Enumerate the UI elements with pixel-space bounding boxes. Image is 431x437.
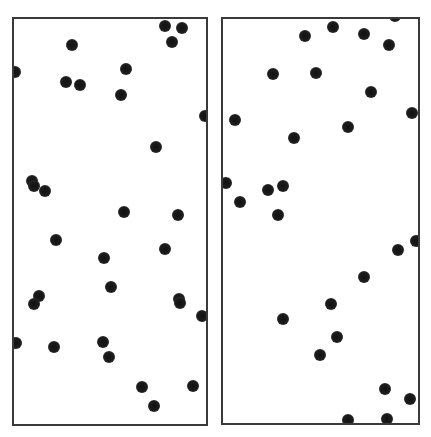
particle-dot bbox=[277, 180, 289, 192]
particle-dot bbox=[199, 110, 208, 122]
particle-dot bbox=[103, 351, 115, 363]
particle-dot bbox=[150, 141, 162, 153]
particle-dot bbox=[234, 196, 246, 208]
particle-dot bbox=[358, 28, 370, 40]
particle-dot bbox=[314, 349, 326, 361]
particle-dot bbox=[381, 413, 393, 425]
particle-dot bbox=[392, 244, 404, 256]
particle-dot bbox=[159, 20, 171, 32]
particle-dot bbox=[148, 400, 160, 412]
particle-dot bbox=[379, 383, 391, 395]
particle-dot bbox=[12, 66, 21, 78]
particle-dot bbox=[174, 297, 186, 309]
particle-dot bbox=[120, 63, 132, 75]
particle-dot bbox=[262, 184, 274, 196]
particle-dot bbox=[50, 234, 62, 246]
particle-dot bbox=[365, 86, 377, 98]
particle-dot bbox=[358, 271, 370, 283]
particle-dot bbox=[342, 121, 354, 133]
particle-dot bbox=[404, 393, 416, 405]
particle-dot bbox=[299, 30, 311, 42]
particle-dot bbox=[136, 381, 148, 393]
particle-dot bbox=[176, 22, 188, 34]
particle-dot bbox=[60, 76, 72, 88]
particle-dot bbox=[325, 298, 337, 310]
particle-dot bbox=[74, 79, 86, 91]
particle-dot bbox=[66, 39, 78, 51]
particle-dot bbox=[187, 380, 199, 392]
particle-dot bbox=[48, 341, 60, 353]
particle-dot bbox=[331, 331, 343, 343]
particle-dot bbox=[229, 114, 241, 126]
particle-dot bbox=[272, 209, 284, 221]
particle-dot bbox=[172, 209, 184, 221]
particle-dot bbox=[196, 310, 208, 322]
particle-dot bbox=[406, 107, 418, 119]
particle-dot bbox=[159, 243, 171, 255]
particle-dot bbox=[105, 281, 117, 293]
particle-dot bbox=[267, 68, 279, 80]
particle-dot bbox=[327, 21, 339, 33]
particle-dot bbox=[277, 313, 289, 325]
right-panel bbox=[221, 17, 420, 425]
particle-dot bbox=[115, 89, 127, 101]
particle-dot bbox=[410, 235, 420, 247]
particle-dot bbox=[39, 185, 51, 197]
particle-dot bbox=[28, 298, 40, 310]
left-panel bbox=[12, 17, 208, 426]
particle-dot bbox=[389, 17, 401, 22]
particle-dot bbox=[221, 177, 232, 189]
particle-dot bbox=[98, 252, 110, 264]
particle-dot bbox=[166, 36, 178, 48]
particle-dot bbox=[310, 67, 322, 79]
particle-dot bbox=[383, 39, 395, 51]
particle-dot bbox=[288, 132, 300, 144]
particle-dot bbox=[12, 337, 22, 349]
particle-dot bbox=[342, 414, 354, 425]
particle-dot bbox=[118, 206, 130, 218]
particle-dot bbox=[97, 336, 109, 348]
